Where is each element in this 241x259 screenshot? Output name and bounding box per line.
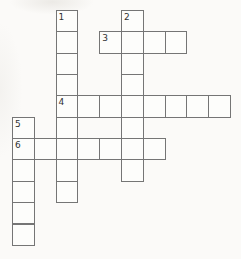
grid-cell[interactable]: 2	[121, 10, 144, 32]
clue-number: 1	[57, 11, 78, 22]
crossword-grid: 142356	[0, 0, 241, 259]
grid-cell[interactable]	[121, 31, 144, 53]
grid-cell[interactable]: 5	[12, 117, 35, 139]
clue-number: 5	[13, 118, 34, 129]
grid-cell[interactable]	[121, 74, 144, 96]
grid-cell[interactable]	[56, 138, 79, 160]
clue-number: 4	[57, 96, 78, 107]
grid-cell[interactable]	[99, 138, 122, 160]
grid-cell[interactable]: 4	[56, 95, 79, 117]
grid-cell[interactable]	[121, 159, 144, 181]
grid-cell[interactable]	[56, 53, 79, 75]
grid-cell[interactable]: 3	[99, 31, 122, 53]
grid-cell[interactable]	[186, 95, 209, 117]
grid-cell[interactable]	[208, 95, 231, 117]
grid-cell[interactable]	[12, 202, 35, 224]
grid-cell[interactable]: 6	[12, 138, 35, 160]
grid-cell[interactable]: 1	[56, 10, 79, 32]
grid-cell[interactable]	[56, 117, 79, 139]
grid-cell[interactable]	[143, 95, 166, 117]
grid-cell[interactable]	[12, 159, 35, 181]
grid-cell[interactable]	[121, 95, 144, 117]
grid-cell[interactable]	[165, 95, 188, 117]
grid-cell[interactable]	[56, 159, 79, 181]
grid-cell[interactable]	[34, 138, 57, 160]
grid-cell[interactable]	[56, 181, 79, 203]
grid-cell[interactable]	[56, 74, 79, 96]
grid-cell[interactable]	[121, 53, 144, 75]
grid-cell[interactable]	[143, 138, 166, 160]
grid-cell[interactable]	[143, 31, 166, 53]
grid-cell[interactable]	[165, 31, 188, 53]
grid-cell[interactable]	[12, 181, 35, 203]
grid-cell[interactable]	[121, 117, 144, 139]
grid-cell[interactable]	[77, 138, 100, 160]
grid-cell[interactable]	[99, 95, 122, 117]
grid-cell[interactable]	[56, 31, 79, 53]
clue-number: 6	[13, 139, 34, 150]
clue-number: 3	[100, 32, 121, 43]
clue-number: 2	[122, 11, 143, 22]
grid-cell[interactable]	[121, 138, 144, 160]
grid-cell[interactable]	[12, 224, 35, 246]
grid-cell[interactable]	[77, 95, 100, 117]
